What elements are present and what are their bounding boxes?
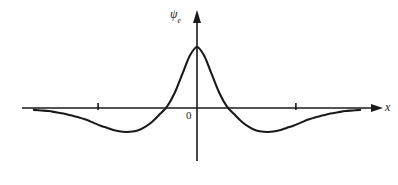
wavefunction-figure: ψe x 0 [0,0,398,185]
x-axis-arrowhead [371,104,383,112]
x-axis-label: x [385,101,390,113]
y-axis-arrowhead [193,10,201,23]
psi-subscript: e [177,16,181,25]
plot-canvas [0,0,398,185]
y-axis-label: ψe [170,8,181,23]
origin-label: 0 [186,110,192,121]
